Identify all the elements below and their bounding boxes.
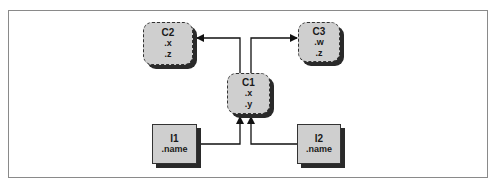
node-attr: .w [314,37,324,48]
class-node-c2: C2 .x .z [143,22,193,65]
class-node-c1: C1 .x .y [227,73,270,114]
instance-node-i2: I2 .name [297,124,341,164]
instance-node-i1: I1 .name [152,124,197,164]
node-title: C3 [313,26,326,37]
node-attr: .name [161,144,187,155]
node-attr: .z [164,49,171,60]
edge-i1-to-c1 [200,117,240,144]
node-attr: .x [164,38,172,49]
node-title: I1 [170,133,178,144]
node-title: C2 [162,27,175,38]
node-attr: .y [245,99,253,110]
node-attr: .x [245,88,253,99]
node-title: I2 [315,133,323,144]
edge-c1-to-c2 [197,38,240,73]
node-attr: .name [306,144,332,155]
class-node-c3: C3 .w .z [298,22,340,62]
node-attr: .z [315,48,322,59]
edge-i2-to-c1 [251,117,297,144]
edge-c1-to-c3 [251,38,297,73]
node-title: C1 [242,77,255,88]
